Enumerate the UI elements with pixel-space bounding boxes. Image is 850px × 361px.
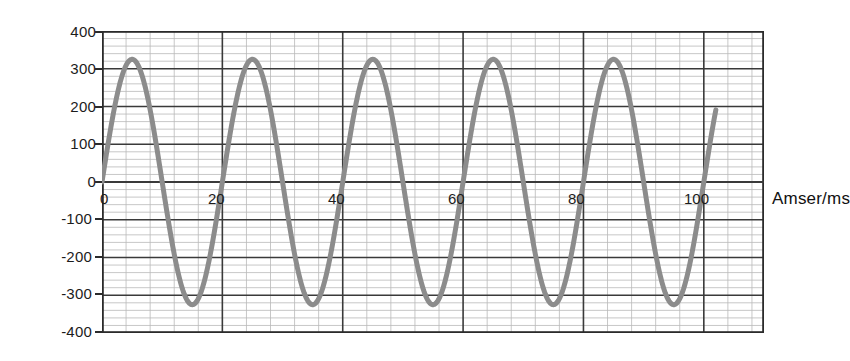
y-tick-label: -400 <box>40 324 92 339</box>
y-tick-label: 400 <box>44 24 96 39</box>
y-tick-label: -200 <box>40 249 92 264</box>
x-tick-label: 80 <box>568 191 585 206</box>
y-tick-label: -100 <box>40 211 92 226</box>
y-tick-label: 0 <box>44 174 96 189</box>
x-tick-label: 20 <box>208 191 225 206</box>
y-tick-label: 300 <box>44 61 96 76</box>
plot-area <box>102 31 764 333</box>
x-tick-label: 40 <box>328 191 345 206</box>
y-tick-label: 100 <box>44 136 96 151</box>
x-tick-label: 60 <box>448 191 465 206</box>
x-tick-label: 100 <box>684 191 709 206</box>
x-axis-title: Amser/ms <box>772 189 850 209</box>
y-tick-label: -300 <box>40 286 92 301</box>
grid-and-curve <box>102 31 764 333</box>
y-tick-label: 200 <box>44 99 96 114</box>
x-tick-label: 0 <box>100 191 108 206</box>
